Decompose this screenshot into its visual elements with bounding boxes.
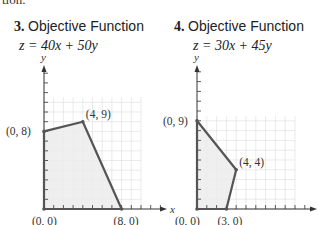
vertex-point <box>120 207 124 211</box>
x-axis-arrow-icon <box>310 207 317 212</box>
y-axis-arrow-icon <box>42 65 47 72</box>
x-axis-arrow-icon <box>160 207 167 212</box>
chart-1: xy(0, 0)(0, 8)(4, 9)(8, 0) <box>6 51 175 225</box>
vertex-label: (0, 9) <box>163 115 188 128</box>
chart-2: xy(0, 0)(0, 9)(4, 4)(3, 0) <box>163 51 319 225</box>
y-axis-label: y <box>40 51 46 63</box>
vertex-label: (4, 4) <box>239 156 264 169</box>
y-axis-label: y <box>193 51 199 63</box>
charts-canvas: xy(0, 0)(0, 8)(4, 9)(8, 0)xy(0, 0)(0, 9)… <box>0 0 319 225</box>
vertex-point <box>195 207 199 211</box>
y-axis-arrow-icon <box>195 65 200 72</box>
vertex-point <box>225 207 229 211</box>
vertex-point <box>195 119 199 123</box>
vertex-point <box>42 130 46 134</box>
vertex-label: (8, 0) <box>114 215 139 225</box>
vertex-point <box>81 120 85 124</box>
feasible-region <box>44 122 122 209</box>
vertex-label: (0, 0) <box>175 215 200 225</box>
vertex-label: (4, 9) <box>86 108 111 121</box>
vertex-point <box>42 207 46 211</box>
vertex-label: (0, 8) <box>6 125 31 138</box>
vertex-point <box>234 168 238 172</box>
vertex-label: (3, 0) <box>217 215 242 225</box>
x-axis-label: x <box>169 203 175 215</box>
vertex-label: (0, 0) <box>32 215 57 225</box>
